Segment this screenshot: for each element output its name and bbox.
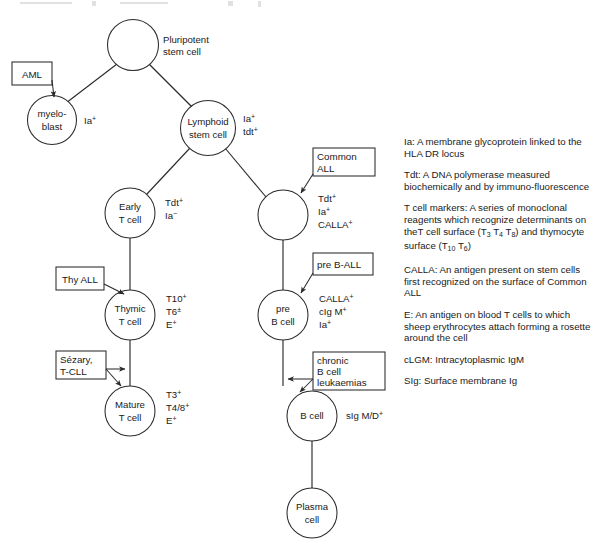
label-early-t-line-2: T cell xyxy=(119,214,142,225)
edge-pluripotent-lymphoid xyxy=(149,64,192,107)
legend-entry-ia: Ia: A membrane glycoprotein linked to th… xyxy=(404,136,596,159)
markers-common-all-1: Ia+ xyxy=(318,206,330,218)
node-common-all[interactable] xyxy=(258,190,308,240)
legend-entry-e: E: An antigen on blood T cells to which … xyxy=(404,309,596,344)
label-lymphoid-line-1: Lymphoid xyxy=(187,116,228,127)
markers-pre-b-1: cIg M+ xyxy=(319,306,347,318)
box-chronic-b-line-1: chronic xyxy=(317,355,349,366)
label-pre-b-line-2: B cell xyxy=(271,316,294,327)
arrow-pre-b-all-to-node xyxy=(301,273,313,293)
label-myeloblast-line-1: myelo- xyxy=(38,108,67,119)
legend-entry-tdt: Tdt: A DNA polymerase measured biochemic… xyxy=(404,169,596,192)
markers-thymic-t-1: T6± xyxy=(166,306,181,318)
label-thymic-t-line-2: T cell xyxy=(119,316,142,327)
arrow-sezary-to-mature-t xyxy=(106,369,121,386)
legend-entry-t-cell-markers: T cell markers: A series of monoclonal r… xyxy=(404,202,596,254)
box-sezary-line-1: Sézary, xyxy=(60,354,93,365)
label-lymphoid-line-2: stem cell xyxy=(189,129,227,140)
box-thy-all-label: Thy ALL xyxy=(62,274,98,285)
markers-myeloblast-0: Ia+ xyxy=(84,115,96,127)
markers-early-t-1: Ia− xyxy=(165,210,177,222)
edge-pluripotent-myeloblast xyxy=(66,64,117,103)
arrow-thy-all-to-thymic-t xyxy=(104,284,124,294)
label-mature-t-line-1: Mature xyxy=(115,399,145,410)
arrow-chronic-b-to-b-cell xyxy=(300,379,313,392)
markers-lymphoid-1: tdt+ xyxy=(243,126,258,138)
box-sezary-line-2: T-CLL xyxy=(60,366,87,377)
markers-thymic-t-0: T10+ xyxy=(166,293,187,305)
markers-common-all-0: Tdt+ xyxy=(318,193,336,205)
label-pluripotent-line-2: stem cell xyxy=(163,46,201,57)
box-aml-label: AML xyxy=(22,69,43,80)
markers-b-cell-0: sIg M/D+ xyxy=(346,410,383,422)
arrow-aml-to-myeloblast xyxy=(52,80,54,97)
label-plasma-line-2: cell xyxy=(305,514,319,525)
label-mature-t-line-2: T cell xyxy=(119,412,142,423)
arrow-common-all-to-node xyxy=(301,174,313,193)
label-b-cell: B cell xyxy=(300,410,323,421)
label-early-t-line-1: Early xyxy=(119,201,141,212)
markers-common-all-2: CALLA+ xyxy=(318,219,353,231)
legend-entry-slg: SIg: Surface membrane Ig xyxy=(404,375,596,387)
lineage-diagram: Pluripotent stem cell myelo- blast Lymph… xyxy=(0,0,600,549)
label-myeloblast-line-2: blast xyxy=(42,121,63,132)
legend-entry-calla: CALLA: An antigen present on stem cells … xyxy=(404,264,596,299)
node-pluripotent-stem-cell[interactable] xyxy=(108,20,159,71)
label-pluripotent-line-1: Pluripotent xyxy=(163,34,209,45)
edge-lymphoid-common-all xyxy=(225,148,266,197)
markers-pre-b-0: CALLA+ xyxy=(319,293,354,305)
markers-mature-t-0: T3+ xyxy=(166,389,181,401)
edge-lymphoid-early-t xyxy=(146,148,190,195)
box-chronic-b-line-2: B cell xyxy=(317,366,341,377)
box-pre-b-all-label: pre B-ALL xyxy=(317,259,362,270)
markers-mature-t-1: T4/8+ xyxy=(166,402,189,414)
box-common-all-line-2: ALL xyxy=(317,163,335,174)
label-thymic-t-line-1: Thymic xyxy=(115,303,146,314)
markers-thymic-t-2: E+ xyxy=(166,319,177,331)
label-pre-b-line-1: pre xyxy=(276,303,290,314)
label-plasma-line-1: Plasma xyxy=(296,501,329,512)
markers-pre-b-2: Ia+ xyxy=(319,319,331,331)
markers-mature-t-2: E+ xyxy=(166,415,177,427)
box-common-all-line-1: Common xyxy=(317,151,357,162)
legend-panel: Ia: A membrane glycoprotein linked to th… xyxy=(404,136,596,387)
legend-entry-clgm: cLGM: Intracytoplasmic IgM xyxy=(404,354,596,366)
markers-early-t-0: Tdt+ xyxy=(165,197,183,209)
box-chronic-b-line-3: leukaemias xyxy=(317,377,367,388)
markers-lymphoid-0: Ia+ xyxy=(243,113,255,125)
